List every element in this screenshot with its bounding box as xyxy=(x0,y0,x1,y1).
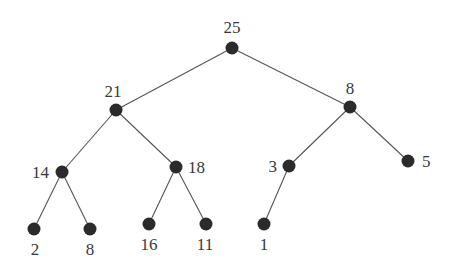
tree-node xyxy=(344,101,357,114)
tree-node xyxy=(258,218,271,231)
node-label: 14 xyxy=(32,163,50,182)
node-label: 11 xyxy=(197,235,213,254)
tree-node xyxy=(283,160,296,173)
tree-edge xyxy=(289,107,350,166)
tree-edge xyxy=(116,48,232,110)
node-label: 3 xyxy=(269,157,278,176)
tree-node xyxy=(170,161,183,174)
tree-node xyxy=(200,218,213,231)
node-label: 21 xyxy=(105,82,122,101)
node-label: 16 xyxy=(141,235,158,254)
tree-edge xyxy=(62,172,90,229)
node-label: 5 xyxy=(422,152,431,171)
tree-node xyxy=(402,155,415,168)
tree-node xyxy=(110,104,123,117)
node-label: 18 xyxy=(188,158,205,177)
tree-edge xyxy=(62,110,116,172)
binary-tree-diagram: 252181418352816111 xyxy=(0,0,452,272)
tree-edge xyxy=(350,107,408,161)
tree-node xyxy=(143,218,156,231)
node-label: 25 xyxy=(224,18,241,37)
tree-node xyxy=(28,223,41,236)
tree-node xyxy=(84,223,97,236)
tree-edge xyxy=(232,48,350,107)
node-label: 1 xyxy=(260,235,269,254)
node-label: 2 xyxy=(31,240,40,259)
node-label: 8 xyxy=(346,79,355,98)
tree-node xyxy=(56,166,69,179)
node-label: 8 xyxy=(86,240,95,259)
tree-edges xyxy=(34,48,408,229)
tree-edge xyxy=(149,167,176,224)
tree-node xyxy=(226,42,239,55)
tree-edge xyxy=(116,110,176,167)
tree-nodes xyxy=(28,42,415,236)
